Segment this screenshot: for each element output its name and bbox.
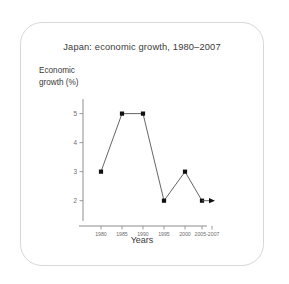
y-tick-group: 5432 xyxy=(73,110,83,204)
data-point-marker xyxy=(183,170,187,174)
data-point-marker xyxy=(120,112,124,116)
x-axis-label: Years xyxy=(21,235,263,245)
line-chart-plot: 5432 198019851990199520002005-2007 xyxy=(21,23,265,267)
y-tick-label: 2 xyxy=(73,197,77,204)
trend-arrow-head xyxy=(209,198,215,203)
data-point-markers xyxy=(99,112,204,203)
y-tick-label: 5 xyxy=(73,110,77,117)
y-tick-label: 4 xyxy=(73,139,77,146)
data-point-marker xyxy=(99,170,103,174)
chart-card: Japan: economic growth, 1980–2007 Econom… xyxy=(20,22,264,266)
data-point-marker xyxy=(162,199,166,203)
data-point-marker xyxy=(141,112,145,116)
data-series-line xyxy=(101,114,202,201)
y-tick-label: 3 xyxy=(73,168,77,175)
